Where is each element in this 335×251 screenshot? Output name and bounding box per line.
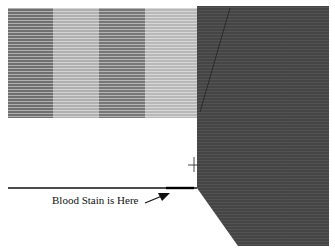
- blood-stain-label: Blood Stain is Here: [52, 194, 138, 206]
- striped-wall: [8, 8, 198, 118]
- diagram-canvas: [0, 0, 335, 251]
- pointer-arrow: [145, 193, 170, 203]
- dark-block: [197, 6, 329, 246]
